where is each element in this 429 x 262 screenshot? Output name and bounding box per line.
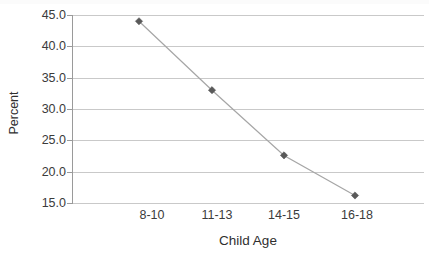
x-tick-label: 14-15	[249, 208, 319, 222]
series-group	[0, 0, 429, 262]
x-axis-title: Child Age	[72, 233, 424, 248]
x-tick-label: 8-10	[117, 208, 187, 222]
x-tick-label: 16-18	[322, 208, 392, 222]
data-point-marker	[351, 192, 358, 199]
x-tick-label: 11-13	[182, 208, 252, 222]
series-line	[139, 21, 355, 195]
line-chart: 45.0 40.0 35.0 30.0 25.0 20.0 15.0 Perce…	[0, 0, 429, 262]
